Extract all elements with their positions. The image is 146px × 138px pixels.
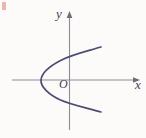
coordinate-plane-svg — [0, 0, 146, 138]
x-axis — [12, 77, 140, 83]
y-axis-label: y — [56, 7, 62, 20]
x-axis-label: x — [135, 78, 141, 91]
parabola-figure: y x O — [0, 0, 146, 138]
y-axis — [67, 11, 73, 130]
y-axis-arrowhead-icon — [67, 11, 73, 18]
origin-label: O — [59, 78, 68, 90]
